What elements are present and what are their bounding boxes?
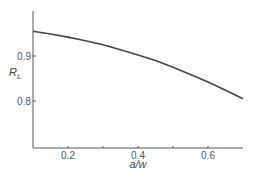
data-line (33, 31, 243, 98)
x-tick-label: 0.2 (61, 150, 75, 161)
x-axis-label: a/w (129, 158, 147, 170)
chart: 0.20.40.6 0.90.8 a/w RL (0, 0, 258, 179)
y-tick-label: 0.9 (17, 51, 31, 62)
y-axis-label: RL (9, 66, 21, 81)
y-tick-label: 0.8 (17, 96, 31, 107)
x-tick-label: 0.6 (201, 150, 215, 161)
